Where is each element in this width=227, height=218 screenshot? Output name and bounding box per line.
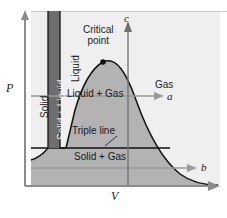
critical-point-label-line1: Critical xyxy=(83,24,114,35)
p-axis-arrowhead xyxy=(21,10,29,20)
path-c-label: c xyxy=(124,13,129,25)
critical-point-dot xyxy=(100,59,106,65)
region-label-liquid: Liquid xyxy=(71,55,82,82)
region-label-gas: Gas xyxy=(155,80,173,91)
region-label-liquid-gas: Liquid + Gas xyxy=(67,89,123,100)
x-axis-label: V xyxy=(111,190,118,203)
region-label-solid-liquid: Solid + Liquid xyxy=(57,80,68,140)
path-b-label: b xyxy=(201,162,207,174)
critical-point-label-line2: point xyxy=(83,35,114,46)
region-label-solid-gas: Solid + Gas xyxy=(74,152,126,163)
region-label-solid: Solid xyxy=(40,96,51,118)
triple-line-label: Triple line xyxy=(72,126,115,137)
y-axis-label: P xyxy=(6,82,13,95)
phase-diagram-figure: P V Solid Solid + Liquid Liquid Liquid +… xyxy=(0,0,227,218)
critical-point-label: Critical point xyxy=(83,24,114,46)
path-a-label: a xyxy=(167,91,173,103)
